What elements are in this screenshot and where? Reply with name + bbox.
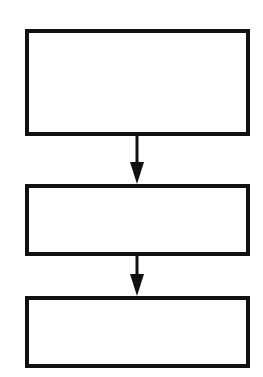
arrow-2-to-3 [130, 256, 144, 296]
connectors [0, 0, 263, 377]
arrow-1-to-2 [130, 136, 144, 184]
